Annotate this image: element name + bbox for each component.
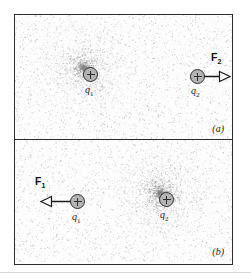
charge-label-q1-b: q1 xyxy=(72,211,81,225)
charge-q2-b[interactable] xyxy=(159,192,174,207)
charge-q1-b[interactable] xyxy=(70,194,85,209)
plus-sign-icon xyxy=(87,71,95,79)
charge-label-q2-b: q2 xyxy=(160,209,169,223)
panel-tag-b: (b) xyxy=(212,246,224,257)
charge-glow-q1-a xyxy=(34,18,134,118)
figure-root: q1 q2 F2 (a) xyxy=(0,0,251,278)
force-label-f2: F2 xyxy=(211,51,221,65)
charge-label-q1-a: q1 xyxy=(85,84,94,98)
panel-a: q1 q2 F2 (a) xyxy=(15,15,232,140)
plus-sign-icon xyxy=(194,73,202,81)
bottom-rule xyxy=(0,272,251,273)
panel-tag-a: (a) xyxy=(212,123,224,134)
charge-q2-a[interactable] xyxy=(190,69,205,84)
plus-sign-icon xyxy=(74,198,82,206)
charge-label-q2-a: q2 xyxy=(191,85,200,99)
charge-q1-a[interactable] xyxy=(83,67,98,82)
force-arrow-f2 xyxy=(204,69,232,85)
force-arrow-f1 xyxy=(39,194,71,210)
figure-frame: q1 q2 F2 (a) xyxy=(14,14,233,265)
panel-b: F1 q1 q2 (b) xyxy=(15,140,232,262)
force-label-f1: F1 xyxy=(35,175,45,189)
plus-sign-icon xyxy=(163,196,171,204)
charge-glow-q2-b xyxy=(110,143,210,243)
